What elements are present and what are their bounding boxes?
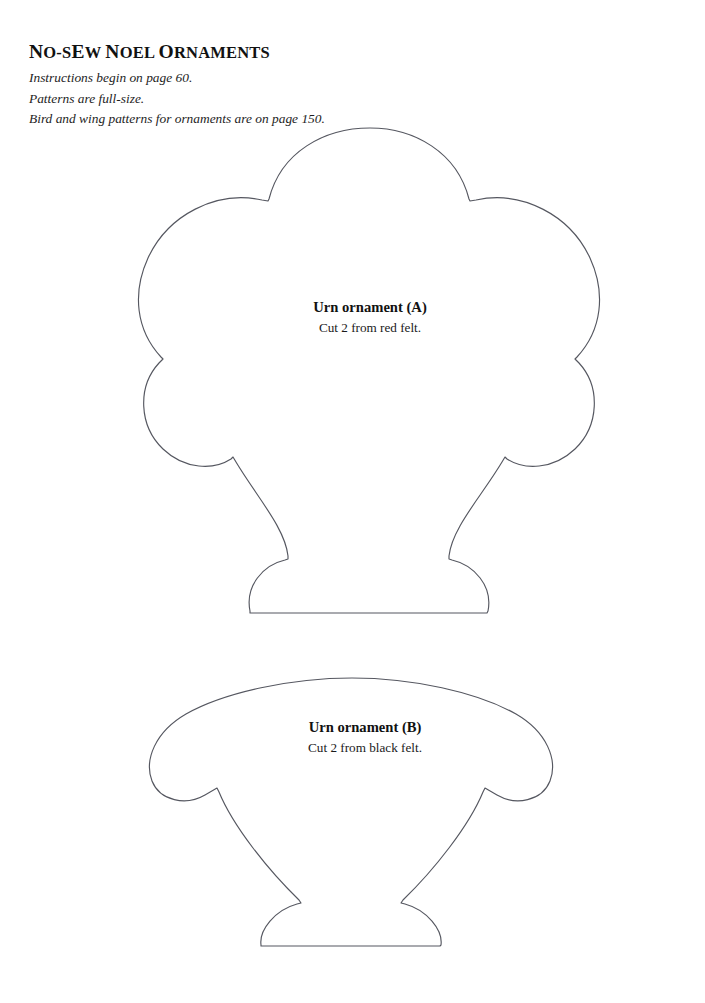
ornament-a-instruction: Cut 2 from red felt. — [210, 318, 530, 337]
ornament-b-instruction: Cut 2 from black felt. — [205, 738, 525, 757]
ornament-b-title: Urn ornament (B) — [205, 718, 525, 738]
ornament-a-label: Urn ornament (A) Cut 2 from red felt. — [210, 298, 530, 337]
ornament-a-title: Urn ornament (A) — [210, 298, 530, 318]
pattern-sheet-page: NO-SEW NOEL ORNAMENTS Instructions begin… — [0, 0, 705, 1003]
ornament-b-label: Urn ornament (B) Cut 2 from black felt. — [205, 718, 525, 757]
ornament-a-outline — [138, 128, 599, 613]
pattern-outlines-layer — [0, 0, 705, 1003]
